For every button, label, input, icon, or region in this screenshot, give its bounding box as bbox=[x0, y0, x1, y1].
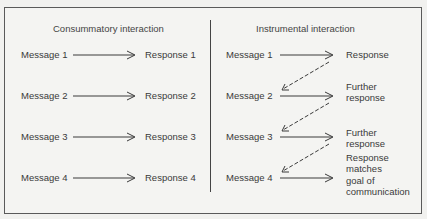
feedback-arrow-1 bbox=[282, 62, 329, 90]
left-arrow-3 bbox=[73, 133, 135, 141]
feedback-arrow-2 bbox=[282, 103, 329, 131]
right-arrow-2 bbox=[280, 92, 333, 100]
left-arrow-4 bbox=[73, 174, 135, 182]
left-arrow-2 bbox=[73, 92, 135, 100]
right-arrow-1 bbox=[280, 51, 333, 59]
right-arrow-4 bbox=[280, 174, 333, 182]
right-arrow-3 bbox=[280, 133, 333, 141]
left-arrow-1 bbox=[73, 51, 135, 59]
arrows-layer bbox=[0, 0, 427, 219]
feedback-arrow-3 bbox=[282, 144, 329, 172]
